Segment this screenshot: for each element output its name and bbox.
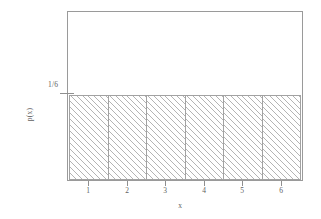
x-axis-tick-label-3: 3 — [157, 186, 173, 196]
bar-4 — [185, 95, 225, 180]
x-axis-tick-label-2: 2 — [119, 186, 135, 196]
y-axis-tick-mark — [60, 93, 74, 94]
x-axis-tick-label-4: 4 — [196, 186, 212, 196]
x-axis-tick-label-1: 1 — [80, 186, 96, 196]
x-axis-tick-label-6: 6 — [273, 186, 289, 196]
x-axis-title: x — [145, 201, 215, 211]
bar-1 — [69, 95, 109, 180]
y-axis-title: p(x) — [25, 85, 34, 145]
bar-6 — [262, 95, 302, 180]
x-axis-tick-label-5: 5 — [234, 186, 250, 196]
bar-3 — [146, 95, 186, 180]
y-axis-tick-label: 1/6 — [38, 80, 58, 89]
bar-2 — [108, 95, 148, 180]
bar-5 — [223, 95, 263, 180]
bar-series — [69, 95, 301, 180]
probability-distribution-figure: 1/6 p(x) 1 2 3 4 5 6 x — [0, 0, 321, 219]
